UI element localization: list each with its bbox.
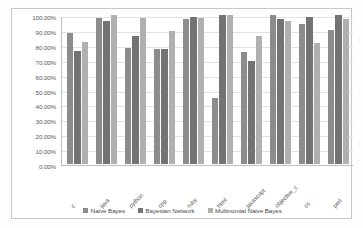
bar-group (237, 17, 266, 164)
bar (306, 17, 313, 165)
bar (132, 36, 139, 164)
y-axis-tick-label: 10.00% (36, 148, 56, 155)
bar (154, 49, 161, 164)
bar (190, 17, 197, 165)
bar (198, 18, 205, 164)
y-axis-tick-label: 100.00% (32, 14, 56, 21)
bar (103, 21, 110, 164)
y-axis-tick-label: 30.00% (36, 118, 56, 125)
y-axis-tick-label: 70.00% (36, 58, 56, 65)
chart-frame: 0.00%10.00%20.00%30.00%40.00%50.00%60.00… (11, 8, 352, 219)
bar (343, 19, 350, 164)
bar (161, 49, 168, 164)
legend-label: Bayesian Network (146, 207, 195, 214)
bar (125, 48, 132, 164)
bar (285, 21, 292, 164)
bar-group (150, 17, 179, 164)
bar (67, 33, 74, 164)
bar-group (208, 17, 237, 164)
bar (169, 31, 176, 164)
bar (314, 43, 321, 164)
bar (74, 51, 81, 164)
plot-area (61, 17, 353, 166)
legend-item[interactable]: Multinomial Naive Bayes (208, 207, 282, 214)
bar-chart: 0.00%10.00%20.00%30.00%40.00%50.00%60.00… (0, 0, 363, 228)
bar (111, 15, 118, 164)
bar (241, 52, 248, 164)
bar-group (92, 17, 121, 164)
legend-item[interactable]: Naive Bayes (83, 207, 125, 214)
bar (227, 15, 234, 164)
legend-swatch-icon (83, 208, 88, 213)
y-axis-tick-label: 80.00% (36, 43, 56, 50)
bar-groups (63, 17, 353, 164)
bar (299, 24, 306, 164)
bar (212, 98, 219, 164)
bar (183, 19, 190, 164)
bar (270, 15, 277, 164)
y-axis-tick-label: 90.00% (36, 28, 56, 35)
x-axis-tick-label: javascript (245, 188, 266, 209)
x-axis-tick-label: objective_c (274, 184, 299, 209)
bar-group (295, 17, 324, 164)
y-axis: 0.00%10.00%20.00%30.00%40.00%50.00%60.00… (12, 17, 59, 166)
legend-label: Multinomial Naive Bayes (215, 207, 282, 214)
legend-item[interactable]: Bayesian Network (138, 207, 195, 214)
legend-swatch-icon (208, 208, 213, 213)
y-axis-tick-label: 40.00% (36, 103, 56, 110)
legend-label: Naive Bayes (91, 207, 125, 214)
bar (328, 30, 335, 164)
bar (96, 18, 103, 164)
y-axis-tick-label: 0.00% (39, 163, 56, 170)
bar-group (179, 17, 208, 164)
bar-group (266, 17, 295, 164)
chart-legend: Naive BayesBayesian NetworkMultinomial N… (12, 207, 353, 214)
bar (277, 19, 284, 164)
bar-group (324, 17, 353, 164)
bar (82, 42, 89, 164)
bar (248, 61, 255, 164)
bar (335, 15, 342, 164)
legend-swatch-icon (138, 208, 143, 213)
bar (256, 36, 263, 164)
bar (140, 18, 147, 164)
y-axis-tick-label: 20.00% (36, 133, 56, 140)
bar (219, 15, 226, 164)
bar-group (63, 17, 92, 164)
x-axis: cjavapythoncpprubyhtmljavascriptobjectiv… (61, 167, 353, 209)
y-axis-tick-label: 60.00% (36, 73, 56, 80)
bar-group (121, 17, 150, 164)
y-axis-tick-label: 50.00% (36, 88, 56, 95)
